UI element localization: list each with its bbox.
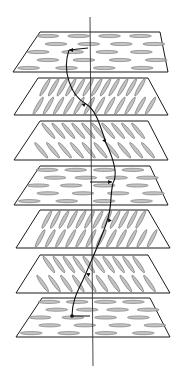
molecule [122,300,144,303]
molecule [137,308,159,311]
molecule [130,50,152,53]
molecule [94,300,116,303]
molecule [144,324,166,327]
molecule [44,176,66,179]
molecule [142,192,164,195]
molecule [136,176,158,179]
molecule [37,192,59,195]
molecule [37,58,59,61]
molecule [39,324,61,327]
molecule [58,332,80,335]
molecule [20,332,42,335]
molecule [37,34,59,37]
layer-6 [16,255,170,293]
molecule [143,42,165,45]
layer-5 [16,210,170,248]
molecule [18,200,40,203]
molecule [107,308,129,311]
molecule [95,332,117,335]
molecule [68,34,90,37]
molecule [73,58,95,61]
molecule [65,168,87,171]
molecule [93,200,115,203]
helix-end-dot [70,314,74,318]
molecule [56,200,78,203]
molecule [66,300,88,303]
molecule [131,200,153,203]
molecule [72,192,94,195]
molecule [46,308,68,311]
molecule [122,168,144,171]
molecule [132,332,154,335]
molecule [18,66,40,69]
molecule [60,184,82,187]
molecule [75,176,97,179]
cholesteric-layer-diagram [0,0,184,381]
molecule [110,42,132,45]
molecule [36,168,58,171]
molecule [127,316,149,319]
molecule [27,50,49,53]
molecule [126,184,148,187]
molecule [76,308,98,311]
molecule [106,176,128,179]
molecule [27,184,49,187]
molecule [129,34,151,37]
molecule [99,34,121,37]
molecule [93,168,115,171]
molecule [45,42,67,45]
molecule [78,42,100,45]
molecule [109,58,131,61]
molecule [131,66,153,69]
molecule [96,50,118,53]
molecule [95,316,117,319]
molecule [93,66,115,69]
molecule [29,316,51,319]
molecule [107,192,129,195]
molecule [109,324,131,327]
molecule [145,58,167,61]
molecule [38,300,60,303]
